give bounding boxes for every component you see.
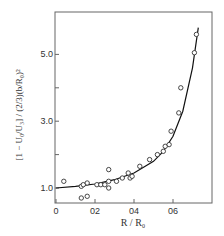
data-point xyxy=(194,32,198,36)
data-point xyxy=(177,111,181,115)
x-tick-label: 0 xyxy=(53,206,58,216)
data-point xyxy=(192,51,196,55)
data-point xyxy=(155,152,159,156)
data-points xyxy=(62,32,199,200)
y-tick-label: 3.0 xyxy=(40,116,53,126)
data-point xyxy=(147,157,151,161)
data-point xyxy=(107,167,111,171)
data-point xyxy=(114,179,118,183)
y-axis-title-text: [1 − U₀/U₃] / (2/3)(b/R₀)² xyxy=(14,69,24,160)
data-point xyxy=(103,183,107,187)
data-point xyxy=(107,186,111,190)
y-tick-label: 5.0 xyxy=(40,49,53,59)
y-axis: 1.03.05.0 xyxy=(40,49,59,193)
x-axis-title: R / R₀ xyxy=(121,217,146,228)
x-tick-label: 04 xyxy=(129,206,139,216)
x-axis: 0020406 xyxy=(53,199,178,216)
data-point xyxy=(85,194,89,198)
data-point xyxy=(138,164,142,168)
data-point xyxy=(130,174,134,178)
y-axis-title: [1 − U₀/U₃] / (2/3)(b/R₀)² xyxy=(14,69,24,160)
data-point xyxy=(161,149,165,153)
data-point xyxy=(179,86,183,90)
x-tick-label: 02 xyxy=(90,206,100,216)
data-point xyxy=(79,196,83,200)
data-point xyxy=(62,179,66,183)
chart: 1.03.05.0 0020406 R / R₀ [1 − U₀/U₃] / (… xyxy=(0,0,224,236)
data-point xyxy=(169,129,173,133)
data-point xyxy=(120,176,124,180)
data-point xyxy=(85,181,89,185)
y-tick-label: 1.0 xyxy=(40,183,53,193)
x-tick-label: 06 xyxy=(168,206,178,216)
data-point xyxy=(167,142,171,146)
data-point xyxy=(107,179,111,183)
data-point xyxy=(126,171,130,175)
fit-curve xyxy=(56,28,198,188)
